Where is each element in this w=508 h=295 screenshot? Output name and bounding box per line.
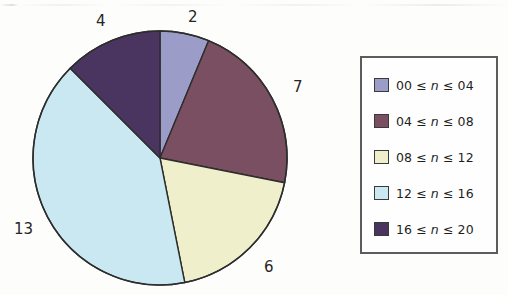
pie-chart-svg [0,0,340,295]
legend-color-swatch [374,150,389,164]
legend-color-swatch [374,186,389,200]
pie-slice-value-label: 13 [14,222,33,237]
legend-item: 00 ≤ n ≤ 04 [374,67,492,103]
legend-item: 08 ≤ n ≤ 12 [374,139,492,175]
legend-item-label: 12 ≤ n ≤ 16 [396,186,474,201]
legend-color-swatch [374,78,389,92]
legend-color-swatch [374,222,389,236]
pie-chart: 276134 [0,0,340,295]
legend-item: 16 ≤ n ≤ 20 [374,211,492,247]
legend-items: 00 ≤ n ≤ 0404 ≤ n ≤ 0808 ≤ n ≤ 1212 ≤ n … [374,67,492,247]
pie-slice-value-label: 7 [293,80,303,95]
pie-slice-value-label: 2 [188,10,198,25]
legend-item: 04 ≤ n ≤ 08 [374,103,492,139]
legend-color-swatch [374,114,389,128]
pie-slice-value-label: 6 [264,260,274,275]
pie-slice-value-label: 4 [96,14,106,29]
legend-item-label: 04 ≤ n ≤ 08 [396,114,474,129]
legend-item: 12 ≤ n ≤ 16 [374,175,492,211]
legend: 00 ≤ n ≤ 0404 ≤ n ≤ 0808 ≤ n ≤ 1212 ≤ n … [360,56,498,254]
legend-item-label: 00 ≤ n ≤ 04 [396,78,474,93]
legend-item-label: 16 ≤ n ≤ 20 [396,222,474,237]
legend-item-label: 08 ≤ n ≤ 12 [396,150,474,165]
